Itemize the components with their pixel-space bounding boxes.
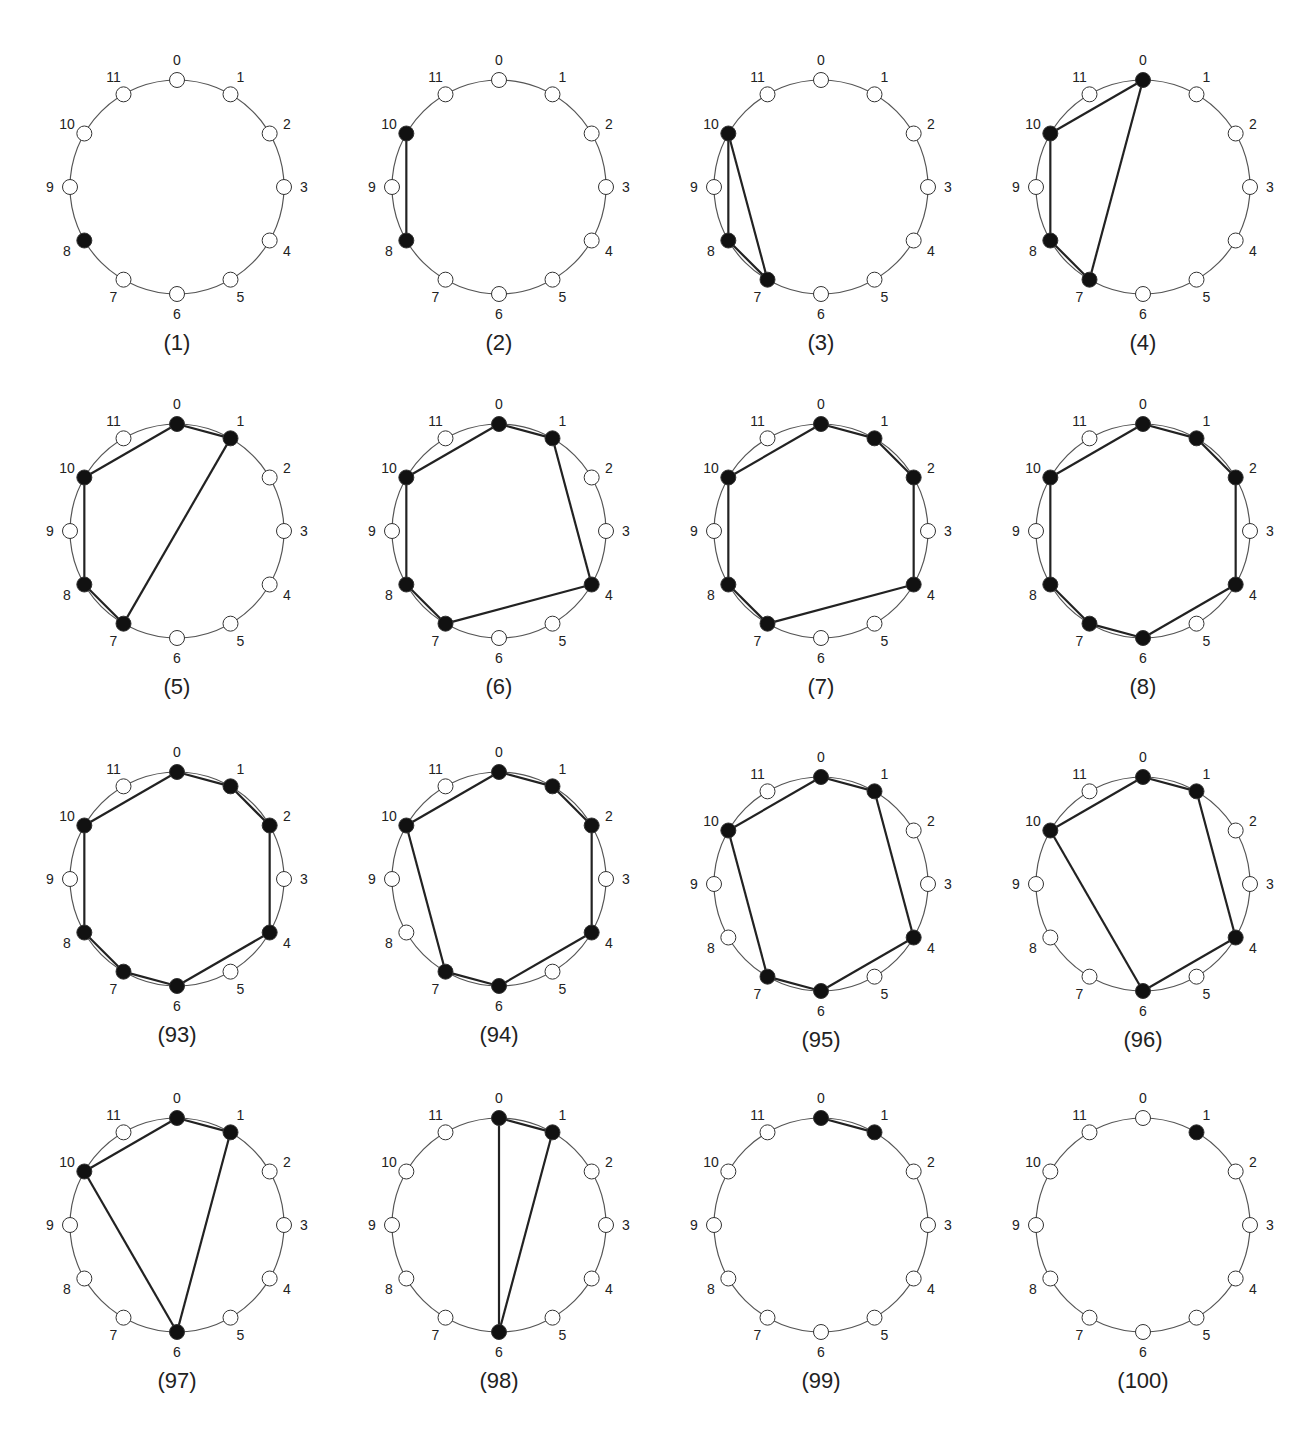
- node-label-4: 4: [1249, 1281, 1257, 1297]
- empty-node-7: [438, 272, 453, 287]
- empty-node-11: [1082, 1125, 1097, 1140]
- empty-node-3: [1243, 877, 1258, 892]
- node-label-10: 10: [703, 116, 719, 132]
- node-label-4: 4: [927, 243, 935, 259]
- node-label-0: 0: [495, 52, 503, 68]
- filled-node-4: [906, 930, 921, 945]
- edge-6-7: [446, 972, 500, 986]
- node-label-11: 11: [428, 1107, 443, 1123]
- edge-1-6: [177, 1132, 231, 1332]
- filled-node-2: [262, 818, 277, 833]
- node-label-8: 8: [385, 243, 393, 259]
- node-label-5: 5: [881, 1327, 889, 1343]
- edge-4-6: [1143, 938, 1236, 992]
- empty-node-9: [385, 524, 400, 539]
- node-label-3: 3: [622, 1217, 630, 1233]
- empty-node-0: [1136, 1111, 1151, 1126]
- node-label-9: 9: [368, 179, 376, 195]
- node-label-11: 11: [1072, 766, 1087, 782]
- node-label-1: 1: [237, 69, 245, 85]
- filled-node-1: [223, 431, 238, 446]
- edge-0-1: [821, 777, 875, 791]
- node-label-5: 5: [237, 633, 245, 649]
- ring-graph: 01234567891011: [27, 700, 327, 1010]
- empty-node-9: [385, 872, 400, 887]
- empty-node-9: [385, 1218, 400, 1233]
- node-label-4: 4: [283, 243, 291, 259]
- empty-node-1: [545, 87, 560, 102]
- filled-node-6: [1136, 984, 1151, 999]
- ring-circle: [1036, 80, 1250, 294]
- edge-10-0: [84, 424, 177, 478]
- node-label-5: 5: [237, 1327, 245, 1343]
- panel-99: 01234567891011(99): [671, 1046, 971, 1376]
- edge-4-7: [446, 585, 592, 624]
- empty-node-9: [63, 524, 78, 539]
- empty-node-7: [438, 1310, 453, 1325]
- ring-graph: 01234567891011: [671, 8, 971, 318]
- node-label-1: 1: [237, 761, 245, 777]
- empty-node-5: [545, 272, 560, 287]
- empty-node-10: [721, 1164, 736, 1179]
- empty-node-2: [262, 126, 277, 141]
- ring-graph: 01234567891011: [349, 1046, 649, 1356]
- filled-node-4: [1228, 930, 1243, 945]
- node-label-0: 0: [817, 396, 825, 412]
- ring-circle: [714, 424, 928, 638]
- panel-caption: (7): [671, 674, 971, 700]
- empty-node-3: [1243, 524, 1258, 539]
- ring-graph: 01234567891011: [27, 352, 327, 662]
- edge-0-1: [177, 1118, 231, 1132]
- node-label-6: 6: [817, 306, 825, 322]
- filled-node-2: [1228, 470, 1243, 485]
- ring-circle: [70, 1118, 284, 1332]
- node-label-5: 5: [1203, 1327, 1211, 1343]
- empty-node-6: [1136, 1325, 1151, 1340]
- panel-4: 01234567891011(4): [993, 8, 1293, 338]
- panel-97: 01234567891011(97): [27, 1046, 327, 1376]
- node-label-2: 2: [605, 116, 613, 132]
- empty-node-0: [170, 73, 185, 88]
- filled-node-10: [399, 126, 414, 141]
- node-label-11: 11: [106, 1107, 121, 1123]
- filled-node-0: [492, 417, 507, 432]
- empty-node-4: [262, 577, 277, 592]
- edge-1-2: [231, 786, 270, 825]
- node-label-4: 4: [927, 940, 935, 956]
- node-label-9: 9: [1012, 1217, 1020, 1233]
- edge-1-2: [875, 438, 914, 477]
- panel-7: 01234567891011(7): [671, 352, 971, 682]
- node-label-6: 6: [1139, 1344, 1147, 1360]
- node-label-9: 9: [46, 179, 54, 195]
- node-label-1: 1: [237, 413, 245, 429]
- filled-node-7: [760, 969, 775, 984]
- node-label-9: 9: [46, 523, 54, 539]
- node-label-5: 5: [559, 1327, 567, 1343]
- filled-node-1: [545, 1125, 560, 1140]
- node-label-0: 0: [1139, 749, 1147, 765]
- node-label-10: 10: [1025, 460, 1041, 476]
- empty-node-9: [1029, 524, 1044, 539]
- empty-node-9: [1029, 877, 1044, 892]
- filled-node-7: [116, 964, 131, 979]
- filled-node-7: [1082, 272, 1097, 287]
- node-label-2: 2: [1249, 460, 1257, 476]
- node-label-8: 8: [63, 1281, 71, 1297]
- filled-node-8: [399, 577, 414, 592]
- filled-node-0: [1136, 417, 1151, 432]
- node-label-7: 7: [1076, 1327, 1084, 1343]
- empty-node-11: [760, 1125, 775, 1140]
- node-label-5: 5: [559, 981, 567, 997]
- edge-7-0: [1090, 80, 1144, 280]
- empty-node-8: [1043, 1271, 1058, 1286]
- node-label-0: 0: [173, 744, 181, 760]
- node-label-1: 1: [1203, 69, 1211, 85]
- node-label-3: 3: [622, 871, 630, 887]
- edge-0-1: [177, 772, 231, 786]
- panel-98: 01234567891011(98): [349, 1046, 649, 1376]
- filled-node-7: [760, 272, 775, 287]
- node-label-7: 7: [432, 633, 440, 649]
- ring-graph: 01234567891011: [349, 8, 649, 318]
- node-label-7: 7: [754, 1327, 762, 1343]
- node-label-1: 1: [237, 1107, 245, 1123]
